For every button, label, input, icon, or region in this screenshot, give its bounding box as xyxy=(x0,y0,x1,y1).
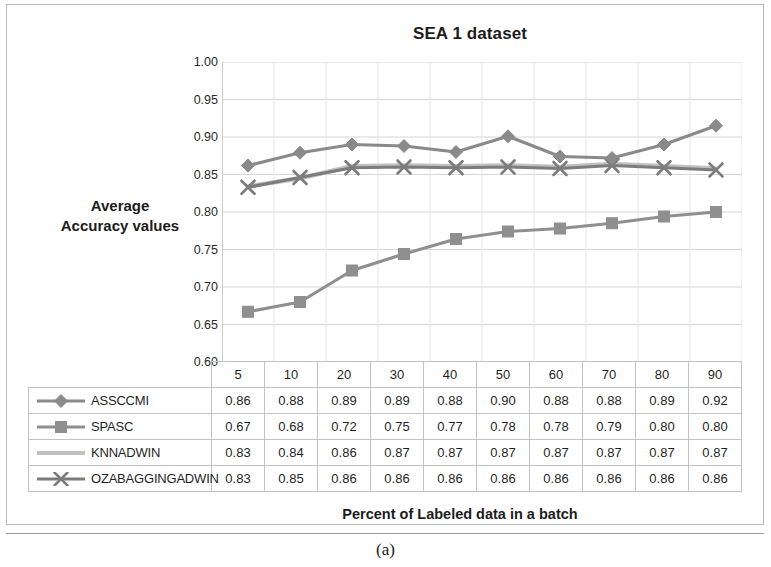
y-tick-label: 1.00 xyxy=(180,55,218,69)
table-cell: 0.79 xyxy=(583,414,636,440)
marker-diamond xyxy=(658,138,671,151)
legend-label: ASSCCMI xyxy=(91,393,149,408)
y-axis-tick-labels: 1.000.950.900.850.800.750.700.650.60 xyxy=(180,62,218,362)
table-cell: 0.83 xyxy=(212,466,265,492)
table-body: ASSCCMI0.860.880.890.890.880.900.880.880… xyxy=(29,388,742,492)
table-cell: 0.84 xyxy=(265,440,318,466)
marker-diamond xyxy=(502,130,515,143)
marker-square xyxy=(659,211,670,222)
table-row: SPASC0.670.680.720.750.770.780.780.790.8… xyxy=(29,414,742,440)
y-tick-label: 0.90 xyxy=(180,130,218,144)
table-cell: 0.88 xyxy=(583,388,636,414)
plot-wrapper: 1.000.950.900.850.800.750.700.650.60 xyxy=(180,62,742,362)
y-tick-label: 0.70 xyxy=(180,280,218,294)
table-cell: 0.86 xyxy=(530,466,583,492)
table-cell: 0.88 xyxy=(265,388,318,414)
table-cell: 0.86 xyxy=(212,388,265,414)
legend-entry: SPASC xyxy=(35,419,211,434)
marker-square xyxy=(347,265,358,276)
table-cell: 0.86 xyxy=(371,466,424,492)
table-cell: 0.80 xyxy=(689,414,742,440)
table-column-header: 30 xyxy=(371,362,424,388)
marker-square xyxy=(399,249,410,260)
table-cell: 0.85 xyxy=(265,466,318,492)
table-column-header: 60 xyxy=(530,362,583,388)
table-cell: 0.88 xyxy=(424,388,477,414)
marker-square xyxy=(243,306,254,317)
y-tick-label: 0.85 xyxy=(180,168,218,182)
marker-square xyxy=(607,218,618,229)
x-axis-title: Percent of Labeled data in a batch xyxy=(180,506,740,522)
table-cell: 0.87 xyxy=(371,440,424,466)
y-tick-label: 0.80 xyxy=(180,205,218,219)
marker-diamond xyxy=(450,146,463,159)
marker-diamond xyxy=(398,140,411,153)
table-row: OZABAGGINGADWIN0.830.850.860.860.860.860… xyxy=(29,466,742,492)
table-column-header: 70 xyxy=(583,362,636,388)
table-cell: 0.68 xyxy=(265,414,318,440)
table-cell: 0.78 xyxy=(477,414,530,440)
table-header-row: 5102030405060708090 xyxy=(29,362,742,388)
table-cell: 0.86 xyxy=(636,466,689,492)
y-axis-title: Average Accuracy values xyxy=(40,196,200,236)
table-column-header: 50 xyxy=(477,362,530,388)
table-cell: 0.87 xyxy=(477,440,530,466)
table-column-header: 80 xyxy=(636,362,689,388)
table-cell: 0.87 xyxy=(530,440,583,466)
legend-entry: OZABAGGINGADWIN xyxy=(35,471,211,486)
table-cell: 0.67 xyxy=(212,414,265,440)
table-cell: 0.87 xyxy=(583,440,636,466)
table-cell: 0.86 xyxy=(477,466,530,492)
table-cell: 0.86 xyxy=(583,466,636,492)
table-cell: 0.72 xyxy=(318,414,371,440)
y-axis-title-line-2: Accuracy values xyxy=(40,216,200,236)
marker-diamond xyxy=(294,146,307,159)
table-cell: 0.78 xyxy=(530,414,583,440)
marker-square xyxy=(555,223,566,234)
table-cell: 0.92 xyxy=(689,388,742,414)
table-cell: 0.87 xyxy=(636,440,689,466)
table-cell: 0.86 xyxy=(424,466,477,492)
table-row: ASSCCMI0.860.880.890.890.880.900.880.880… xyxy=(29,388,742,414)
table-corner-cell xyxy=(29,362,212,388)
plot-area xyxy=(222,62,742,362)
y-tick-label: 0.95 xyxy=(180,93,218,107)
legend-key-square-icon xyxy=(35,420,87,434)
table-cell: 0.87 xyxy=(689,440,742,466)
table-cell: 0.75 xyxy=(371,414,424,440)
table-cell: 0.89 xyxy=(318,388,371,414)
table-cell: 0.89 xyxy=(371,388,424,414)
legend-key-diamond-icon xyxy=(35,394,87,408)
marker-diamond xyxy=(710,119,723,132)
table-cell: 0.86 xyxy=(318,440,371,466)
chart-plot-svg xyxy=(222,62,742,362)
table-cell: 0.88 xyxy=(530,388,583,414)
marker-square xyxy=(56,421,67,432)
table-column-header: 90 xyxy=(689,362,742,388)
legend-cell: OZABAGGINGADWIN xyxy=(29,466,212,492)
y-tick-label: 0.65 xyxy=(180,318,218,332)
y-tick-label: 0.75 xyxy=(180,243,218,257)
marker-diamond xyxy=(346,138,359,151)
table-column-header: 40 xyxy=(424,362,477,388)
table-cell: 0.89 xyxy=(636,388,689,414)
marker-diamond xyxy=(55,394,68,407)
figure-page: SEA 1 dataset Average Accuracy values 1.… xyxy=(0,0,771,567)
table-column-header: 20 xyxy=(318,362,371,388)
table-cell: 0.86 xyxy=(318,466,371,492)
legend-entry: KNNADWIN xyxy=(35,445,211,460)
table-column-header: 5 xyxy=(212,362,265,388)
legend-key-x-icon xyxy=(35,472,87,486)
legend-entry: ASSCCMI xyxy=(35,393,211,408)
table-cell: 0.80 xyxy=(636,414,689,440)
chart-title: SEA 1 dataset xyxy=(210,24,730,44)
marker-diamond xyxy=(554,150,567,163)
legend-cell: SPASC xyxy=(29,414,212,440)
legend-label: KNNADWIN xyxy=(91,445,160,460)
table-cell: 0.87 xyxy=(424,440,477,466)
table-column-header: 10 xyxy=(265,362,318,388)
legend-cell: KNNADWIN xyxy=(29,440,212,466)
marker-square xyxy=(295,297,306,308)
marker-square xyxy=(711,207,722,218)
legend-key-line-icon xyxy=(35,446,87,460)
